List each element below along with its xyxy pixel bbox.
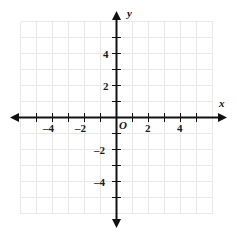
y-axis-arrow-down [112, 219, 121, 228]
y-tick-label-2: 2 [103, 81, 109, 92]
x-tick-label-neg2: –2 [75, 123, 86, 134]
coordinate-plane-figure: y x O –4 –2 2 4 4 2 –2 –4 [0, 0, 237, 240]
y-axis-arrow-up [112, 11, 121, 20]
y-tick-label-neg2: –2 [94, 145, 105, 156]
x-tick-label-4: 4 [177, 123, 183, 134]
x-axis-arrow-left [10, 113, 19, 122]
y-axis-label: y [127, 8, 132, 19]
y-tick-label-4: 4 [103, 49, 109, 60]
y-tick-label-neg4: –4 [94, 177, 105, 188]
origin-label: O [119, 120, 127, 131]
x-tick-label-2: 2 [145, 123, 151, 134]
x-axis-arrow-right [218, 113, 227, 122]
x-axis-label: x [219, 98, 225, 109]
x-tick-label-neg4: –4 [43, 123, 54, 134]
